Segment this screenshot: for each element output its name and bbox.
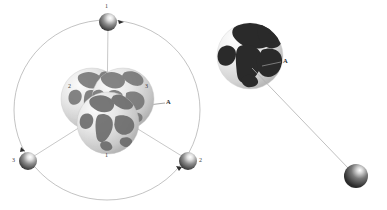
diagram-svg [0, 0, 387, 210]
satellite-3-label: 3 [12, 157, 15, 163]
right-earth-group [217, 22, 368, 188]
globe-1-label: 1 [105, 152, 108, 158]
satellite-2-label: 2 [199, 157, 202, 163]
right-axis-label-a: A [283, 58, 288, 65]
satellite-right-body [344, 164, 368, 188]
globe-cluster [61, 68, 154, 154]
satellite-2-body [179, 152, 197, 170]
satellite-tether-line [252, 68, 349, 169]
left-axis-label-a: A [166, 99, 171, 106]
satellite-3-body [19, 152, 37, 170]
globe-3-label: 3 [145, 83, 148, 89]
orbit-arrow-top [118, 20, 124, 24]
figure-canvas: 1 2 3 2 3 1 A A [0, 0, 387, 210]
left-orbit-group [14, 13, 200, 200]
satellite-1-label: 1 [105, 3, 108, 9]
globe-2-label: 2 [68, 83, 71, 89]
globe-1 [77, 92, 139, 154]
satellite-1-body [99, 13, 117, 31]
